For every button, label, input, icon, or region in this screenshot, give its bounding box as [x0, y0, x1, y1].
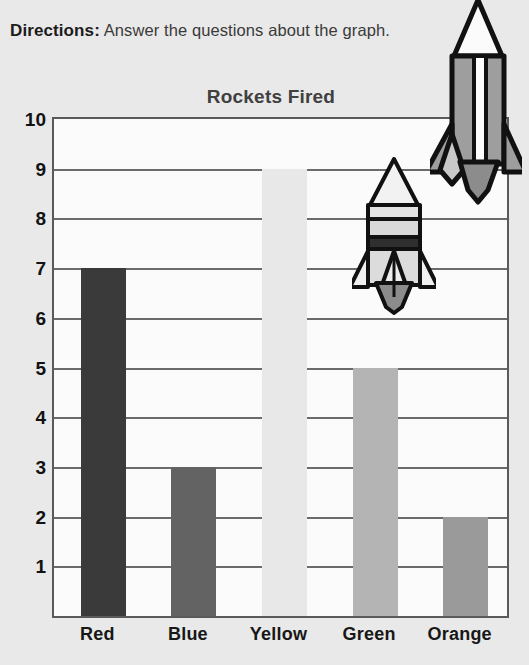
y-tick-8: 8	[6, 209, 46, 228]
y-tick-4: 4	[6, 408, 46, 427]
y-tick-10: 10	[6, 110, 46, 129]
bar-yellow	[262, 169, 307, 616]
x-axis: RedBlueYellowGreenOrange	[52, 624, 509, 658]
x-tick-blue: Blue	[143, 624, 234, 645]
bar-red	[81, 268, 126, 616]
directions-text: Answer the questions about the graph.	[104, 21, 390, 39]
x-tick-green: Green	[324, 624, 415, 645]
y-tick-9: 9	[6, 160, 46, 179]
x-tick-yellow: Yellow	[233, 624, 324, 645]
y-tick-7: 7	[6, 259, 46, 278]
x-tick-orange: Orange	[414, 624, 505, 645]
bar-blue	[171, 467, 216, 616]
rocket-icon	[352, 155, 436, 315]
rocket-icon	[430, 0, 522, 209]
bar-orange	[443, 517, 488, 616]
y-tick-3: 3	[6, 458, 46, 477]
x-tick-red: Red	[52, 624, 143, 645]
directions-line: Directions: Answer the questions about t…	[10, 21, 390, 41]
y-tick-1: 1	[6, 557, 46, 576]
y-tick-5: 5	[6, 359, 46, 378]
y-tick-6: 6	[6, 309, 46, 328]
bar-green	[353, 368, 398, 617]
directions-label: Directions:	[10, 21, 100, 40]
worksheet-page: Directions: Answer the questions about t…	[0, 0, 529, 665]
chart-title: Rockets Fired	[176, 86, 366, 108]
y-tick-2: 2	[6, 508, 46, 527]
y-axis: 10987654321	[0, 117, 46, 618]
